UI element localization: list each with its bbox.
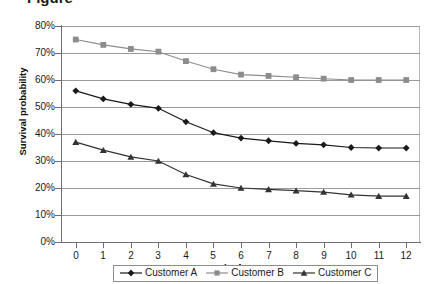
data-point-marker bbox=[211, 66, 217, 72]
data-point-marker bbox=[183, 118, 190, 125]
data-point-marker bbox=[293, 140, 300, 147]
data-point-marker bbox=[100, 96, 107, 103]
data-point-marker bbox=[238, 72, 244, 78]
data-point-marker bbox=[182, 171, 189, 177]
legend-label-customer-b: Customer B bbox=[231, 267, 284, 279]
legend-label-customer-a: Customer A bbox=[145, 267, 197, 279]
data-point-marker bbox=[238, 135, 245, 142]
data-point-marker bbox=[72, 87, 79, 94]
data-point-marker bbox=[403, 77, 409, 83]
legend-item-customer-a[interactable]: Customer A bbox=[120, 267, 197, 279]
data-point-marker bbox=[72, 139, 79, 145]
legend-item-customer-b[interactable]: Customer B bbox=[206, 267, 284, 279]
series-customer-a bbox=[72, 87, 409, 151]
legend-marker-diamond-icon bbox=[120, 268, 142, 278]
data-point-marker bbox=[376, 77, 382, 83]
series-customer-b bbox=[73, 37, 409, 83]
chart-legend: Customer A Customer B Customer C bbox=[113, 265, 378, 282]
data-point-marker bbox=[293, 74, 299, 80]
legend-marker-triangle-icon bbox=[293, 268, 315, 278]
survival-probability-chart: Figure 0%10%20%30%40%50%60%70%80% 012345… bbox=[0, 0, 434, 284]
data-point-marker bbox=[348, 77, 354, 83]
data-point-marker bbox=[320, 141, 327, 148]
data-point-marker bbox=[73, 37, 79, 43]
data-point-marker bbox=[210, 129, 217, 136]
data-point-marker bbox=[155, 105, 162, 112]
data-point-marker bbox=[128, 46, 134, 52]
data-point-marker bbox=[266, 73, 272, 79]
data-point-marker bbox=[375, 145, 382, 152]
data-point-marker bbox=[183, 58, 189, 64]
data-point-marker bbox=[403, 145, 410, 152]
y-axis-title: Survival probability bbox=[17, 37, 28, 187]
data-point-marker bbox=[155, 49, 161, 55]
data-point-marker bbox=[265, 137, 272, 144]
legend-item-customer-c[interactable]: Customer C bbox=[293, 267, 371, 279]
legend-label-customer-c: Customer C bbox=[318, 267, 371, 279]
data-point-marker bbox=[100, 42, 106, 48]
data-point-marker bbox=[127, 101, 134, 108]
series-layer bbox=[0, 0, 434, 284]
data-point-marker bbox=[321, 76, 327, 82]
legend-marker-square-icon bbox=[206, 268, 228, 278]
data-point-marker bbox=[348, 144, 355, 151]
